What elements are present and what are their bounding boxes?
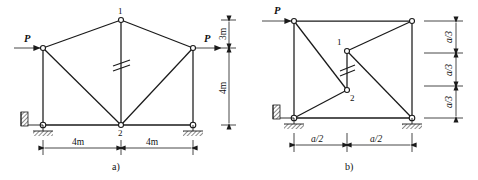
figure-b: 1 2 P — [262, 5, 463, 173]
node-label-a-2: 2 — [118, 128, 123, 138]
wall-hatch-a-left — [21, 112, 28, 126]
member-a-left-top-chord — [43, 20, 121, 48]
dim-label-b-h2: a/2 — [370, 134, 382, 144]
figure-a-joints — [40, 18, 196, 128]
support-a-left — [21, 112, 53, 136]
diagram-canvas: 1 2 P — [0, 0, 478, 180]
load-label-b: P — [274, 5, 281, 16]
load-a-left: P — [14, 33, 40, 48]
dim-a-vertical: 3m 4m — [218, 20, 236, 125]
joint-a-left-upper — [41, 46, 46, 51]
load-b-top: P — [262, 5, 291, 21]
truss-figure-pair: 1 2 P — [0, 0, 478, 180]
figure-a: 1 2 P — [14, 6, 236, 173]
joint-a-apex — [119, 18, 124, 23]
joint-b-top-left — [292, 19, 297, 24]
member-a-left-diagonal — [43, 48, 121, 125]
support-b-right — [402, 118, 422, 129]
dim-label-b-v2: a/3 — [444, 64, 454, 76]
joint-a-bottom-center — [119, 123, 124, 128]
dim-a-horizontal: 4m 4m — [43, 137, 193, 155]
member-b-diagonal-1-to-tr — [347, 21, 412, 51]
node-label-a-1: 1 — [118, 6, 123, 16]
support-b-left — [273, 105, 304, 129]
member-b-diagonal-2-to-bl — [294, 90, 347, 118]
load-label-a-right: P — [204, 33, 211, 44]
load-label-a-left: P — [24, 33, 31, 44]
member-a-right-diagonal — [121, 48, 193, 125]
dim-label-b-h1: a/2 — [311, 134, 323, 144]
figure-b-members — [294, 21, 412, 118]
member-b-diagonal-1-to-br — [347, 51, 412, 118]
figure-caption-b: b) — [345, 161, 353, 173]
figure-a-members — [43, 20, 193, 125]
dim-label-a-h2: 4m — [146, 137, 159, 147]
support-a-right — [183, 125, 203, 136]
ground-hatch-b-right — [402, 124, 422, 129]
dim-label-a-h1: 4m — [72, 137, 85, 147]
ground-hatch-a-right — [183, 131, 203, 136]
joint-a-right-upper — [191, 46, 196, 51]
member-a-right-top-chord — [121, 20, 193, 48]
node-label-b-2: 2 — [350, 93, 355, 103]
figure-caption-a: a) — [112, 161, 120, 173]
dim-label-a-v1: 3m — [218, 27, 228, 40]
joint-b-node-2 — [345, 88, 350, 93]
dim-b-horizontal: a/2 a/2 — [294, 133, 412, 152]
dim-label-a-v2: 4m — [218, 81, 228, 94]
ground-hatch-a-left — [33, 131, 53, 136]
dim-b-vertical: a/3 a/3 a/3 — [424, 21, 463, 118]
node-label-b-1: 1 — [337, 37, 342, 47]
ground-hatch-b-left — [284, 124, 304, 129]
joint-b-top-right — [410, 19, 415, 24]
wall-hatch-b-left — [273, 105, 280, 119]
member-b-diagonal-tl-to-2 — [294, 21, 347, 90]
figure-b-joints — [291, 19, 415, 121]
joint-b-node-1 — [345, 49, 350, 54]
dim-label-b-v1: a/3 — [444, 31, 454, 43]
dim-label-b-v3: a/3 — [444, 96, 454, 108]
